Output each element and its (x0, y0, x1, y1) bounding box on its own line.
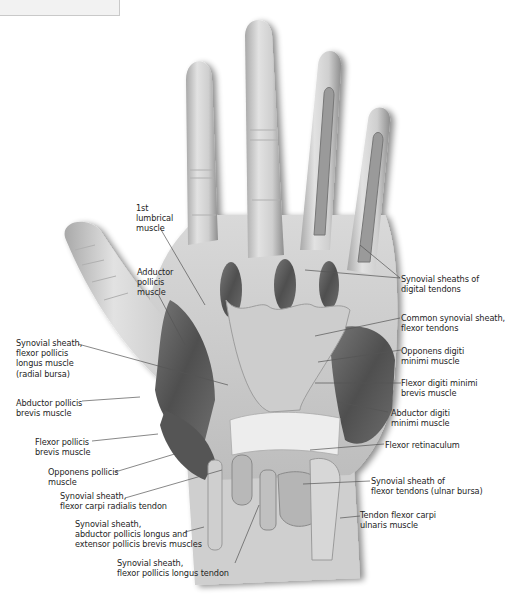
label-1st-lumbrical: 1st lumbrical muscle (136, 203, 173, 234)
label-flexor-pollicis-brevis: Flexor pollicis brevis muscle (35, 437, 90, 457)
label-adductor-pollicis: Adductor pollicis muscle (137, 267, 173, 298)
middle-finger (245, 20, 284, 258)
label-synovial-sheath-fpl-tendon: Synovial sheath, flexor pollicis longus … (117, 558, 229, 578)
label-flexor-digiti-minimi: Flexor digiti minimi brevis muscle (401, 378, 477, 398)
label-tendon-fcu: Tendon flexor carpi ulnaris muscle (360, 510, 436, 530)
label-synovial-sheath-fpl-radial-bursa: Synovial sheath, flexor pollicis longus … (16, 338, 82, 379)
label-abductor-pollicis-brevis: Abductor pollicis brevis muscle (16, 398, 82, 418)
label-opponens-digiti-minimi: Opponens digiti minimi muscle (401, 346, 464, 366)
label-common-synovial-sheath: Common synovial sheath, flexor tendons (401, 313, 505, 333)
label-flexor-retinaculum: Flexor retinaculum (385, 440, 460, 450)
index-finger (186, 61, 218, 245)
label-synovial-sheaths-digital: Synovial sheaths of digital tendons (401, 274, 479, 294)
label-synovial-sheath-apl-epb: Synovial sheath, abductor pollicis longu… (75, 519, 202, 550)
label-synovial-sheath-ulnar-bursa: Synovial sheath of flexor tendons (ulnar… (371, 476, 483, 496)
label-abductor-digiti-minimi: Abductor digiti minimi muscle (391, 408, 450, 428)
label-synovial-sheath-fcr: Synovial sheath, flexor carpi radialis t… (60, 491, 167, 511)
label-opponens-pollicis: Opponens pollicis muscle (48, 467, 119, 487)
